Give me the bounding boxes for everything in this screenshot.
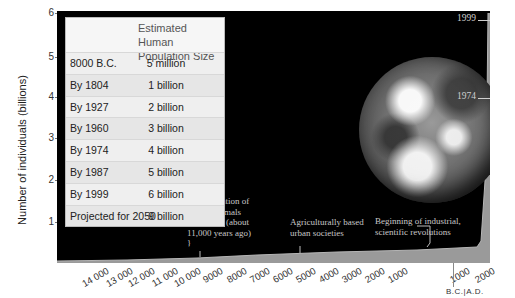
x-tick: 1000 (386, 265, 410, 285)
table-body: 8000 B.C.5 million By 18041 billion By 1… (66, 52, 224, 226)
table-row: By 19996 billion (66, 183, 224, 205)
table-row: By 19272 billion (66, 96, 224, 118)
annotation-industrial: Beginning of industrial, scientific revo… (375, 216, 461, 237)
table-row: By 19875 billion (66, 161, 224, 183)
table-row: By 18041 billion (66, 74, 224, 96)
x-tick: 9000 (201, 265, 225, 285)
y-tick-3: 3 (44, 132, 54, 143)
label-1974: 1974 (457, 91, 476, 101)
x-tick: 6000 (271, 265, 295, 285)
x-tick: 4000 (317, 265, 341, 285)
x-tick: 2000 (363, 265, 387, 285)
x-tick: 7000 (248, 265, 272, 285)
y-axis-label: Number of individuals (billions) (16, 75, 28, 225)
y-tick-6: 6 (44, 7, 54, 18)
bc-ad-divider (453, 263, 454, 287)
y-tick-1: 1 (44, 216, 54, 227)
label-1999: 1999 (457, 13, 476, 23)
x-tick: 5000 (294, 265, 318, 285)
table-row: By 19744 billion (66, 139, 224, 161)
table-row: Projected for 20509 billion (66, 205, 224, 227)
y-tick-5: 5 (44, 51, 54, 62)
bc-ad-label: B.C.|A.D. (446, 287, 484, 296)
y-tick-4: 4 (44, 91, 54, 102)
leader-1999 (478, 20, 490, 21)
table-header: Estimated Human Population Size (66, 18, 224, 52)
x-tick: 1000 (448, 265, 472, 285)
table-row: By 19603 billion (66, 117, 224, 139)
annotation-agriculture: Agriculturally based urban societies (290, 217, 364, 238)
x-tick: 2000 (473, 265, 497, 285)
table-row: 8000 B.C.5 million (66, 52, 224, 74)
x-tick: 8000 (225, 265, 249, 285)
population-table: Estimated Human Population Size 8000 B.C… (65, 17, 225, 227)
x-tick: 3000 (340, 265, 364, 285)
y-tick-2: 2 (44, 174, 54, 185)
leader-1974 (478, 98, 490, 99)
